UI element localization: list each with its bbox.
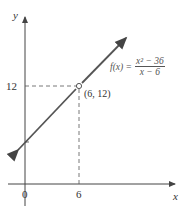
- denominator: x − 6: [140, 67, 160, 77]
- numerator: x² − 36: [135, 56, 165, 67]
- hole-point: [76, 83, 81, 88]
- y-axis-label: y: [13, 9, 18, 21]
- chart-canvas: [0, 0, 185, 213]
- hole-label: (6, 12): [84, 88, 111, 99]
- function-formula: f(x) = x² − 36 x − 6: [110, 56, 165, 77]
- x-tick-0: 0: [22, 188, 28, 200]
- x-axis-label: x: [173, 190, 178, 202]
- function-line: [18, 89, 76, 150]
- x-tick-6: 6: [76, 188, 82, 200]
- function-label: f(x) =: [110, 62, 132, 72]
- y-tick-12: 12: [6, 80, 17, 92]
